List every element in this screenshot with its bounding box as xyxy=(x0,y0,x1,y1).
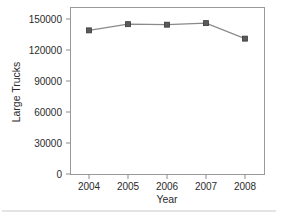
data-point-marker xyxy=(243,36,248,41)
y-tick-label: 150000 xyxy=(29,14,63,25)
x-axis-ticks xyxy=(89,175,245,180)
x-tick-label: 2005 xyxy=(117,181,140,192)
x-tick-label: 2008 xyxy=(234,181,257,192)
plot-area-frame xyxy=(71,8,265,175)
chart-canvas: 150000 120000 90000 60000 30000 0 2004 2… xyxy=(0,0,282,217)
x-tick-label: 2007 xyxy=(195,181,218,192)
y-axis-tick-labels: 150000 120000 90000 60000 30000 0 xyxy=(29,14,63,180)
data-point-marker xyxy=(87,28,92,33)
line-chart-figure: 150000 120000 90000 60000 30000 0 2004 2… xyxy=(0,0,282,217)
y-axis-title: Large Trucks xyxy=(10,62,22,123)
x-tick-label: 2006 xyxy=(156,181,179,192)
x-axis-tick-labels: 2004 2005 2006 2007 2008 xyxy=(78,181,257,192)
y-tick-label: 60000 xyxy=(34,107,62,118)
y-axis-ticks xyxy=(66,19,71,174)
y-tick-label: 30000 xyxy=(34,138,62,149)
y-tick-label: 90000 xyxy=(34,76,62,87)
data-point-marker xyxy=(204,21,209,26)
data-point-marker xyxy=(165,22,170,27)
y-tick-label: 120000 xyxy=(29,45,63,56)
x-tick-label: 2004 xyxy=(78,181,101,192)
data-point-marker xyxy=(126,22,131,27)
y-tick-label: 0 xyxy=(56,169,62,180)
x-axis-title: Year xyxy=(156,193,178,205)
